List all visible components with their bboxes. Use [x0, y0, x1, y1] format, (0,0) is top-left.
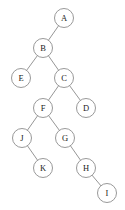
- tree-node-k[interactable]: K: [34, 159, 53, 178]
- node-label-b: B: [40, 43, 46, 53]
- node-label-h: H: [83, 163, 89, 173]
- node-label-g: G: [62, 133, 68, 143]
- tree-node-g[interactable]: G: [56, 129, 75, 148]
- tree-diagram: ABECFDJGKHI: [0, 0, 125, 210]
- tree-edge-g-h: [70, 146, 80, 160]
- tree-edge-a-b: [48, 26, 58, 40]
- tree-edge-f-j: [27, 116, 37, 130]
- tree-node-f[interactable]: F: [34, 99, 53, 118]
- tree-edge-b-e: [27, 56, 38, 71]
- node-label-a: A: [61, 13, 68, 23]
- tree-node-e[interactable]: E: [12, 69, 31, 88]
- tree-node-a[interactable]: A: [55, 9, 74, 28]
- node-label-c: C: [61, 73, 67, 83]
- tree-edge-b-c: [48, 56, 58, 70]
- node-label-f: F: [41, 103, 46, 113]
- tree-edge-h-i: [92, 175, 101, 185]
- tree-edge-f-g: [49, 116, 60, 131]
- node-label-e: E: [18, 73, 23, 83]
- tree-edge-j-k: [27, 146, 37, 160]
- tree-edge-c-d: [70, 86, 81, 101]
- tree-node-d[interactable]: D: [77, 99, 96, 118]
- tree-node-b[interactable]: B: [34, 39, 53, 58]
- node-label-i: I: [106, 188, 109, 198]
- node-layer: ABECFDJGKHI: [12, 9, 117, 203]
- tree-node-c[interactable]: C: [55, 69, 74, 88]
- node-label-d: D: [83, 103, 89, 113]
- tree-node-i[interactable]: I: [98, 184, 117, 203]
- tree-node-j[interactable]: J: [13, 129, 32, 148]
- tree-edge-c-f: [48, 86, 58, 100]
- tree-node-h[interactable]: H: [77, 159, 96, 178]
- node-label-k: K: [40, 163, 47, 173]
